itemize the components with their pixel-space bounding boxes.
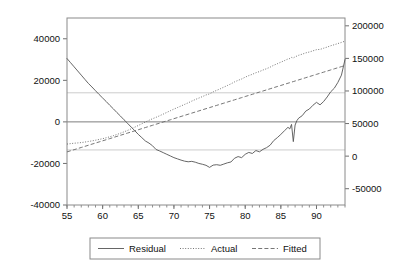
legend-label-actual[interactable]: Actual xyxy=(211,243,237,254)
left-axis-tick-label: 0 xyxy=(55,116,60,127)
right-axis-tick-label: -50000 xyxy=(352,183,382,194)
legend-label-residual[interactable]: Residual xyxy=(129,243,166,254)
x-axis-tick-label: 70 xyxy=(169,210,180,221)
right-axis-tick-label: 0 xyxy=(352,151,357,162)
right-axis-tick-label: 50000 xyxy=(352,118,378,129)
left-axis-tick-label: 40000 xyxy=(34,33,60,44)
chart-background xyxy=(0,0,403,269)
legend-label-fitted[interactable]: Fitted xyxy=(283,243,307,254)
left-axis-tick-label: -20000 xyxy=(30,158,60,169)
x-axis-tick-label: 55 xyxy=(62,210,73,221)
left-axis-tick-label: 20000 xyxy=(34,75,60,86)
residual-actual-fitted-chart: 40000200000-20000-40000 2000001500001000… xyxy=(0,0,403,269)
left-axis-tick-label: -40000 xyxy=(30,199,60,210)
x-axis-tick-label: 75 xyxy=(204,210,215,221)
right-axis-tick-label: 100000 xyxy=(352,85,384,96)
x-axis-tick-label: 85 xyxy=(276,210,287,221)
right-axis-tick-label: 200000 xyxy=(352,20,384,31)
x-axis-tick-label: 60 xyxy=(97,210,108,221)
chart-container: 40000200000-20000-40000 2000001500001000… xyxy=(0,0,403,269)
right-axis-tick-label: 150000 xyxy=(352,53,384,64)
x-axis-tick-label: 80 xyxy=(240,210,251,221)
x-axis-tick-label: 90 xyxy=(311,210,322,221)
x-axis-tick-label: 65 xyxy=(133,210,144,221)
chart-legend[interactable]: ResidualActualFitted xyxy=(90,238,320,259)
